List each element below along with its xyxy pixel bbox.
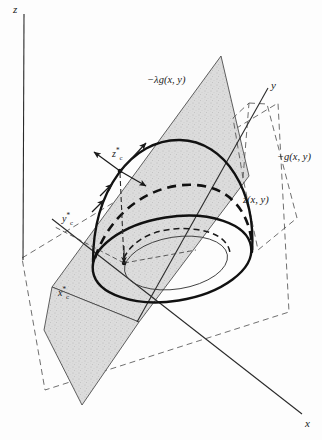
x-star-c-label: x*c xyxy=(58,287,69,301)
z-star-c-subscript: c xyxy=(120,154,123,161)
neg-g-plane xyxy=(233,103,297,250)
y-axis-label: y xyxy=(271,80,276,91)
y-star-c-label: y*c xyxy=(62,213,73,227)
figure-canvas: z y x −λg(x, y) −g(x, y) z(x, y) z*c y*c… xyxy=(0,0,322,440)
y-star-c-subscript: c xyxy=(70,219,73,226)
z-axis xyxy=(23,14,24,260)
lambda-g-plane xyxy=(44,56,249,405)
x-axis-label: x xyxy=(305,418,310,429)
z-function-label: z(x, y) xyxy=(243,195,269,206)
diagram-svg xyxy=(0,0,322,440)
z-star-c-label: z*c xyxy=(112,148,123,162)
x-star-c-subscript: c xyxy=(66,293,69,300)
lambda-g-label: −λg(x, y) xyxy=(147,75,185,86)
neg-g-label: −g(x, y) xyxy=(277,152,311,163)
z-axis-label: z xyxy=(13,4,17,15)
